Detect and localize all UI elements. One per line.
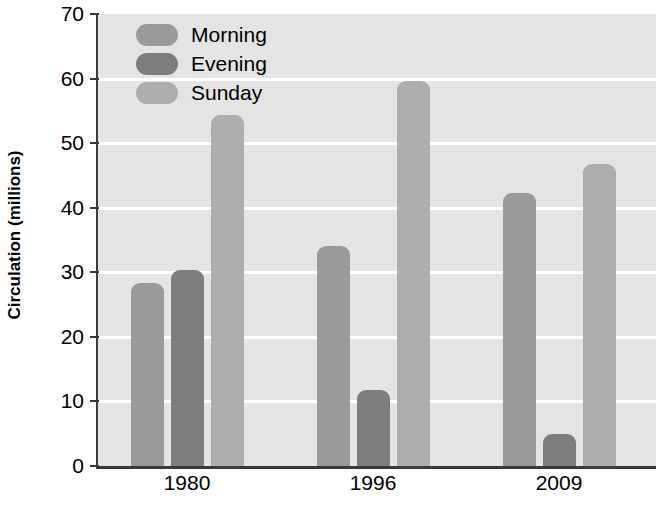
y-tick-label: 70: [61, 2, 84, 26]
legend-item-morning: Morning: [136, 20, 356, 49]
x-axis-tick-labels: 198019962009: [98, 471, 656, 511]
bar: [131, 283, 164, 466]
legend-swatch-icon: [136, 53, 178, 75]
x-tick-label: 1980: [164, 471, 211, 495]
y-tick-mark: [90, 13, 99, 15]
gridline: [98, 207, 656, 210]
bar: [171, 270, 204, 466]
bar: [397, 81, 430, 466]
y-tick-mark: [90, 78, 99, 80]
y-axis-title-label: Circulation (millions): [5, 150, 25, 319]
y-tick-mark: [90, 400, 99, 402]
y-axis-title: Circulation (millions): [0, 0, 30, 470]
legend-item-sunday: Sunday: [136, 78, 356, 107]
y-tick-label: 60: [61, 67, 84, 91]
bar: [211, 115, 244, 466]
bar-chart: Circulation (millions) 010203040506070 M…: [0, 0, 656, 523]
x-axis-line: [96, 466, 656, 469]
legend-swatch-icon: [136, 24, 178, 46]
y-tick-label: 20: [61, 325, 84, 349]
y-axis-tick-labels: 010203040506070: [30, 0, 90, 470]
y-tick-mark: [90, 465, 99, 467]
bar: [357, 390, 390, 466]
y-tick-label: 50: [61, 131, 84, 155]
gridline: [98, 142, 656, 145]
y-tick-mark: [90, 142, 99, 144]
legend-swatch-icon: [136, 82, 178, 104]
x-tick-label: 1996: [350, 471, 397, 495]
y-tick-label: 0: [72, 454, 84, 478]
legend-label: Evening: [191, 52, 267, 76]
legend-item-evening: Evening: [136, 49, 356, 78]
bar: [543, 434, 576, 466]
y-tick-label: 10: [61, 389, 84, 413]
bar: [317, 246, 350, 466]
y-tick-mark: [90, 271, 99, 273]
bar: [583, 164, 616, 466]
chart-legend: MorningEveningSunday: [136, 20, 356, 107]
bar: [503, 193, 536, 466]
x-tick-label: 2009: [536, 471, 583, 495]
y-tick-label: 40: [61, 196, 84, 220]
y-tick-mark: [90, 207, 99, 209]
legend-label: Morning: [191, 23, 267, 47]
legend-label: Sunday: [191, 81, 262, 105]
y-tick-label: 30: [61, 260, 84, 284]
y-tick-mark: [90, 336, 99, 338]
